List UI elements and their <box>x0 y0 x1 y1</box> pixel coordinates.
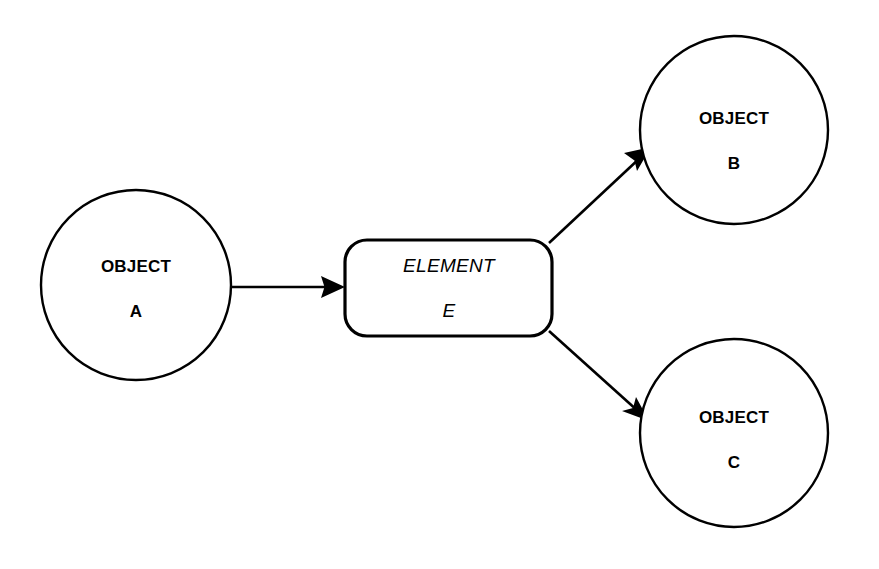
node-object-c[interactable]: OBJECT C <box>640 339 828 527</box>
object-b-label-line2: B <box>728 154 740 173</box>
connector-a-to-e <box>231 276 345 298</box>
object-a-label-line1: OBJECT <box>101 257 172 276</box>
object-a-label-line2: A <box>130 302 142 321</box>
object-b-circle[interactable] <box>640 36 828 224</box>
object-c-circle[interactable] <box>640 339 828 527</box>
node-object-a[interactable]: OBJECT A <box>41 190 231 380</box>
connector-e-to-b <box>549 147 651 243</box>
connector-e-to-c-line <box>549 331 639 412</box>
connector-e-to-c <box>549 331 649 421</box>
object-c-label-line2: C <box>728 453 740 472</box>
object-c-label-line1: OBJECT <box>699 408 770 427</box>
object-a-circle[interactable] <box>41 190 231 380</box>
arrowhead-icon-a-to-e <box>321 276 345 298</box>
element-e-label-line1: ELEMENT <box>403 255 496 276</box>
diagram-canvas: OBJECT A OBJECT B OBJECT C ELEMENT E <box>0 0 879 569</box>
connector-e-to-b-line <box>549 157 641 243</box>
object-b-label-line1: OBJECT <box>699 109 770 128</box>
element-e-label-line2: E <box>443 300 456 321</box>
flow-diagram: OBJECT A OBJECT B OBJECT C ELEMENT E <box>0 0 879 569</box>
node-element-e[interactable]: ELEMENT E <box>345 240 552 336</box>
node-object-b[interactable]: OBJECT B <box>640 36 828 224</box>
